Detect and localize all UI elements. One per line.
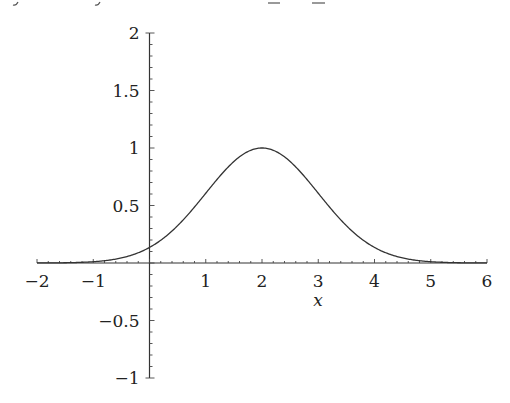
x-tick-label: 4 — [369, 271, 380, 291]
x-tick-label: −2 — [24, 271, 49, 291]
y-tick-label: 0.5 — [112, 196, 139, 216]
y-tick-label: −1 — [114, 368, 139, 388]
x-tick-label: 6 — [482, 271, 493, 291]
x-tick-label: 5 — [425, 271, 436, 291]
x-tick-label: 3 — [313, 271, 324, 291]
x-axis-label: x — [313, 290, 323, 310]
chart-plot: −2−112345621.510.5−0.5−1 x — [0, 0, 510, 403]
curve-line — [37, 148, 487, 263]
y-tick-label: 1.5 — [112, 81, 139, 101]
y-tick-label: −0.5 — [98, 311, 139, 331]
y-tick-label: 1 — [129, 138, 140, 158]
x-tick-label: 1 — [200, 271, 211, 291]
top-clipped-text — [13, 2, 325, 5]
y-tick-label: 2 — [129, 23, 140, 43]
tick-labels: −2−112345621.510.5−0.5−1 — [24, 23, 492, 388]
x-tick-label: 2 — [257, 271, 268, 291]
x-tick-label: −1 — [81, 271, 106, 291]
